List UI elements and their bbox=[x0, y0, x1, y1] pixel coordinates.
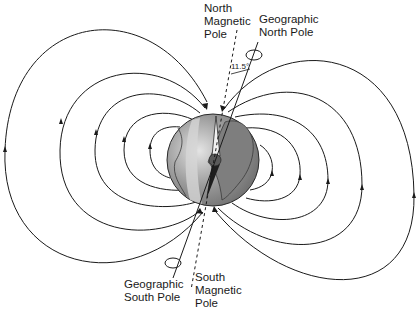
rotation-arrow-north-icon bbox=[246, 50, 262, 60]
arrow-icon bbox=[3, 146, 7, 152]
geographic-north-pole-label: Geographic North Pole bbox=[259, 13, 318, 39]
arrow-icon bbox=[326, 178, 330, 184]
arrow-icon bbox=[360, 184, 364, 190]
arrow-icon bbox=[202, 103, 208, 110]
magnetic-field-diagram bbox=[0, 0, 417, 314]
south-magnetic-pole-label: South Magnetic Pole bbox=[195, 271, 242, 310]
arrow-icon bbox=[148, 143, 152, 149]
tilt-angle-label: 11.5° bbox=[231, 62, 249, 71]
arrow-icon bbox=[59, 118, 63, 124]
north-magnetic-pole-label: North Magnetic Pole bbox=[204, 2, 251, 41]
arrow-icon bbox=[270, 170, 274, 176]
arrow-icon bbox=[412, 192, 416, 198]
arrow-icon bbox=[212, 206, 218, 212]
arrow-icon bbox=[298, 174, 302, 180]
geographic-south-pole-label: Geographic South Pole bbox=[124, 278, 183, 304]
